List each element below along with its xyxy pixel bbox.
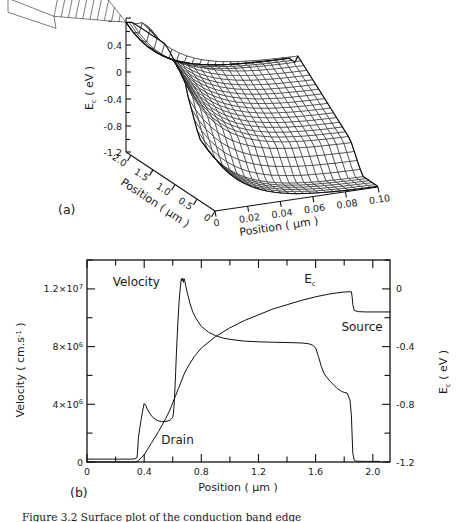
panel-a-front-tick-4: 0.08 xyxy=(336,197,359,211)
panel-a-front-tick-3: 0.06 xyxy=(303,202,326,216)
panel-b-xtick-5: 2.0 xyxy=(365,466,380,477)
series-path-velocity xyxy=(87,278,380,461)
panel-a-front-tick-5: 0.10 xyxy=(368,192,391,206)
panel-a-front-axis: 0 0.02 0.04 0.06 0.08 0.10 Position ( μm… xyxy=(213,187,391,239)
figure-container: 0.8 0.4 0 -0.4 -0.8 -1.2 Ec ( eV ) 2.0 xyxy=(0,0,461,522)
panel-b-ytick-1: 4×106 xyxy=(53,398,83,410)
panel-a-depth-tick-3: 0.5 xyxy=(176,195,195,213)
panel-b-right-axis-title: Ec ( eV ) xyxy=(437,350,452,394)
panel-b-right-title-main: E xyxy=(437,387,450,394)
figure-svg: 0.8 0.4 0 -0.4 -0.8 -1.2 Ec ( eV ) 2.0 xyxy=(0,0,461,522)
series-path-ec xyxy=(87,292,390,462)
ec-label: Ec xyxy=(304,272,316,288)
panel-b-x-ticks: 0 0.4 0.8 1.2 1.6 2.0 xyxy=(84,260,380,477)
panel-b-ytick-0: 0 xyxy=(77,457,83,468)
panel-b-x-axis-title: Position ( μm ) xyxy=(198,481,278,494)
panel-b-ytick-2: 8×106 xyxy=(53,341,83,353)
velocity-label: Velocity xyxy=(113,275,160,289)
panel-a-z-title-unit: ( eV ) xyxy=(83,66,96,96)
surface-left-wing xyxy=(54,0,126,22)
panel-b-ytick-3: 1.2×107 xyxy=(44,283,84,295)
svg-text:Ec ( eV ): Ec ( eV ) xyxy=(437,350,452,394)
panel-b-left-title-exp: -1 xyxy=(15,330,23,337)
panel-a-depth-tick-1: 1.5 xyxy=(132,166,151,184)
panel-a-z-axis-title: Ec ( eV ) xyxy=(83,66,98,110)
panel-b-ytick-right-1: -0.4 xyxy=(396,341,415,352)
velocity-curve xyxy=(87,278,380,461)
panel-b-left-title-close: ) xyxy=(14,322,27,326)
panel-b-xtick-4: 1.6 xyxy=(308,466,323,477)
panel-b-right-title-unit: ( eV ) xyxy=(437,350,450,380)
panel-b: 0 4×106 8×106 1.2×107 Velocity ( cm.s-1 … xyxy=(14,260,452,500)
panel-a-front-title-unit: μm xyxy=(292,216,311,231)
panel-b-x-title-text: Position ( xyxy=(198,481,249,494)
panel-b-left-title-text: Velocity ( xyxy=(14,367,27,418)
panel-b-xtick-0: 0 xyxy=(84,466,90,477)
panel-b-left-axis-title: Velocity ( cm.s-1 ) xyxy=(14,322,27,417)
panel-a-depth-axis: 2.0 1.5 1.0 0.5 0 Position ( μm ) xyxy=(110,151,215,230)
panel-b-xtick-1: 0.4 xyxy=(137,466,152,477)
panel-a-z-axis: 0.8 0.4 0 -0.4 -0.8 -1.2 xyxy=(103,13,131,158)
panel-a-depth-tick-2: 1.0 xyxy=(154,180,173,198)
panel-b-label: (b) xyxy=(70,485,88,500)
panel-a-z-tick-2: 0 xyxy=(116,67,122,78)
ec-curve xyxy=(87,292,390,462)
figure-caption-wrap: Figure 3.2 Surface plot of the conductio… xyxy=(22,511,452,522)
panel-a-depth-tick-4: 0 xyxy=(202,211,213,224)
panel-a-z-tick-4: -0.8 xyxy=(103,121,122,132)
panel-a-z-title-main: E xyxy=(83,103,96,110)
panel-b-ytick-right-3: -1.2 xyxy=(396,457,415,468)
drain-label: Drain xyxy=(161,433,193,447)
svg-text:Position ( μm ): Position ( μm ) xyxy=(198,481,278,494)
figure-caption: Figure 3.2 Surface plot of the conductio… xyxy=(22,511,452,522)
surface-far-plateau xyxy=(8,0,56,28)
panel-b-left-title-unit: cm.s xyxy=(14,337,27,363)
panel-b-x-title-close: ) xyxy=(274,481,278,494)
panel-b-right-ticks: 0 -0.4 -0.8 -1.2 xyxy=(382,260,415,468)
panel-a-z-tick-1: 0.4 xyxy=(107,40,122,51)
panel-a-front-tick-0: 0 xyxy=(213,217,221,229)
svg-text:Ec ( eV ): Ec ( eV ) xyxy=(83,66,98,110)
panel-b-annotations: VelocityDrainEcSource xyxy=(113,272,383,447)
panel-a-z-tick-3: -0.4 xyxy=(103,94,122,105)
panel-b-xtick-2: 0.8 xyxy=(194,466,209,477)
conduction-band-surface-mesh xyxy=(8,0,378,194)
panel-b-ytick-right-2: -0.8 xyxy=(396,399,415,410)
panel-b-ytick-right-0: 0 xyxy=(396,283,402,294)
svg-text:Velocity ( cm.s-1 ): Velocity ( cm.s-1 ) xyxy=(14,322,27,417)
panel-b-plot-frame xyxy=(87,260,390,462)
panel-b-x-title-unit: μm xyxy=(252,481,270,494)
panel-b-xtick-3: 1.2 xyxy=(251,466,266,477)
source-label: Source xyxy=(341,320,382,334)
panel-a: 0.8 0.4 0 -0.4 -0.8 -1.2 Ec ( eV ) 2.0 xyxy=(8,0,391,239)
panel-a-label: (a) xyxy=(58,202,75,217)
panel-a-front-title-close: ) xyxy=(313,214,319,227)
